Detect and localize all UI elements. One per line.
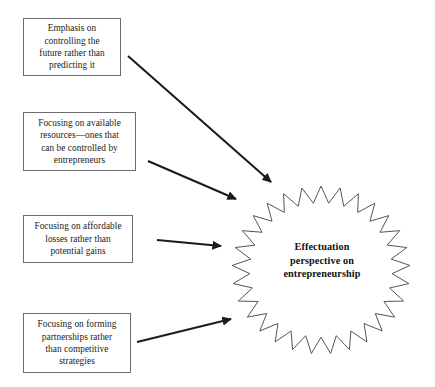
factor-box-label: Emphasis oncontrolling thefuture rather … (39, 22, 104, 72)
connector-arrow (137, 319, 231, 342)
connector-arrow (157, 240, 221, 246)
diagram-canvas: Emphasis oncontrolling thefuture rather … (0, 0, 435, 387)
factor-box-controlling-future[interactable]: Emphasis oncontrolling thefuture rather … (23, 18, 121, 76)
factor-box-available-resources[interactable]: Focusing on availableresources—ones that… (23, 112, 136, 171)
connector-arrow (128, 56, 271, 182)
connector-arrow (148, 161, 236, 199)
factor-box-label: Focusing on formingpartnerships ratherth… (38, 318, 117, 368)
factor-box-forming-partnerships[interactable]: Focusing on formingpartnerships ratherth… (23, 313, 131, 373)
connector-arrows (128, 56, 271, 342)
factor-box-label: Focusing on availableresources—ones that… (38, 117, 121, 167)
factor-box-label: Focusing on affordablelosses rather than… (34, 220, 121, 257)
factor-box-affordable-losses[interactable]: Focusing on affordablelosses rather than… (23, 215, 133, 263)
starburst-center-label: Effectuationperspective onentrepreneursh… (252, 240, 392, 281)
